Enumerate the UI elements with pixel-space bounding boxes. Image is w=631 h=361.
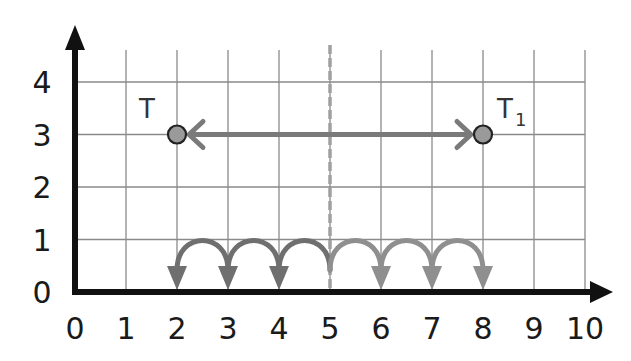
y-tick-label: 2 [32, 170, 51, 205]
x-tick-label: 3 [218, 311, 237, 346]
jump-arc [177, 240, 228, 270]
x-tick-label: 9 [524, 311, 543, 346]
jump-arc [228, 240, 279, 270]
y-tick-label: 0 [32, 275, 51, 310]
x-tick-label: 0 [65, 311, 84, 346]
x-tick-label: 4 [269, 311, 288, 346]
y-tick-label: 1 [32, 223, 51, 258]
x-tick-label: 8 [473, 311, 492, 346]
jump-arc [432, 240, 483, 270]
point-label: T [138, 94, 155, 124]
y-tick-label: 4 [32, 65, 51, 100]
arrowhead-down-icon [167, 266, 187, 290]
point-marker [168, 126, 186, 144]
coordinate-grid-diagram: TT1 01234567891001234 [0, 0, 631, 361]
grid-svg: TT1 01234567891001234 [0, 0, 631, 361]
arrowhead-down-icon [473, 266, 493, 290]
x-tick-label: 6 [371, 311, 390, 346]
tick-labels: 01234567891001234 [32, 65, 604, 346]
jump-arc [279, 240, 330, 270]
y-axis-arrow-icon [65, 25, 85, 50]
x-tick-label: 7 [422, 311, 441, 346]
axes [65, 25, 613, 303]
point-marker [474, 126, 492, 144]
point-label: T1 [496, 94, 526, 130]
x-axis-arrow-icon [590, 281, 613, 303]
y-tick-label: 3 [32, 118, 51, 153]
jump-arc [330, 240, 381, 270]
x-tick-label: 1 [116, 311, 135, 346]
x-tick-label: 2 [167, 311, 186, 346]
x-tick-label: 10 [566, 311, 604, 346]
x-tick-label: 5 [320, 311, 339, 346]
jump-arc [381, 240, 432, 270]
